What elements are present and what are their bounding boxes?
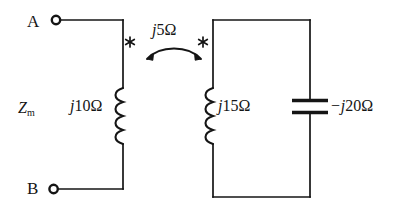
secondary-inductor-value: 15 bbox=[222, 97, 238, 114]
secondary-dot-marker-icon bbox=[199, 37, 208, 47]
terminal-b-label: B bbox=[27, 180, 38, 197]
mutual-coupling-unit: Ω bbox=[164, 21, 176, 38]
mutual-coupling-label: j5Ω bbox=[152, 22, 176, 38]
input-impedance-subscript: m bbox=[27, 107, 35, 118]
terminal-a-label: A bbox=[27, 13, 39, 30]
capacitor-unit: Ω bbox=[361, 97, 373, 114]
terminal-b-circle-icon bbox=[49, 185, 57, 193]
secondary-inductor-coil-icon bbox=[206, 88, 214, 144]
secondary-inductor-label: j15Ω bbox=[218, 98, 250, 114]
mutual-coupling-arrow-icon bbox=[147, 49, 201, 61]
input-impedance-label: Zm bbox=[18, 100, 35, 116]
terminal-a-circle-icon bbox=[52, 16, 60, 24]
primary-inductor-value: 10 bbox=[74, 97, 90, 114]
capacitor-j: −j bbox=[330, 97, 345, 114]
capacitor-icon bbox=[292, 101, 328, 113]
primary-inductor-label: j10Ω bbox=[70, 98, 102, 114]
primary-inductor-unit: Ω bbox=[90, 97, 102, 114]
capacitor-label: −j20Ω bbox=[330, 98, 373, 114]
secondary-inductor-unit: Ω bbox=[238, 97, 250, 114]
capacitor-value: 20 bbox=[345, 97, 361, 114]
primary-dot-marker-icon bbox=[126, 37, 135, 47]
input-impedance-symbol: Z bbox=[18, 99, 27, 116]
primary-inductor-coil-icon bbox=[116, 88, 124, 144]
